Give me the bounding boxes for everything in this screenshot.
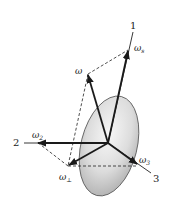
omega-perp-label: ω⊥ — [59, 172, 72, 183]
axis-2-label: 2 — [13, 137, 19, 148]
omega-2-label: ω2 — [32, 130, 43, 141]
omega-s-label: ωs — [134, 43, 144, 54]
angular-velocity-diagram: 1 2 3 ω ωs ω2 ω3 ω⊥ — [0, 0, 176, 205]
omega-label: ω — [75, 66, 83, 76]
axis-3-label: 3 — [153, 173, 159, 184]
omega-3-label: ω3 — [139, 155, 150, 166]
axis-1-label: 1 — [130, 20, 136, 31]
rigid-body-ellipse — [69, 90, 148, 203]
